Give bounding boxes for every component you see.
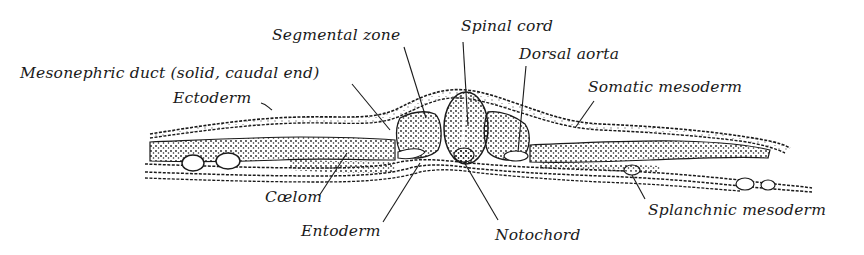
label-segmental-zone: Segmental zone <box>272 28 400 44</box>
label-somatic-mesoderm: Somatic mesoderm <box>588 80 742 96</box>
label-splanchnic-mesoderm: Splanchnic mesoderm <box>648 203 826 219</box>
label-coelom: Cœlom <box>265 190 322 206</box>
leader-ectoderm <box>261 103 272 110</box>
notochord <box>454 148 474 162</box>
dorsal-aorta-lumen <box>504 151 528 161</box>
label-spinal-cord: Spinal cord <box>461 19 553 35</box>
label-entoderm: Entoderm <box>301 224 381 240</box>
label-notochord: Notochord <box>495 228 581 244</box>
label-ectoderm: Ectoderm <box>173 91 251 107</box>
label-dorsal-aorta: Dorsal aorta <box>519 47 619 63</box>
embryo-cross-section-figure: Segmental zone Spinal cord Mesonephric d… <box>0 0 864 255</box>
label-mesonephric-duct: Mesonephric duct (solid, caudal end) <box>20 66 319 82</box>
leader-splanchnic-mesoderm <box>632 175 645 199</box>
